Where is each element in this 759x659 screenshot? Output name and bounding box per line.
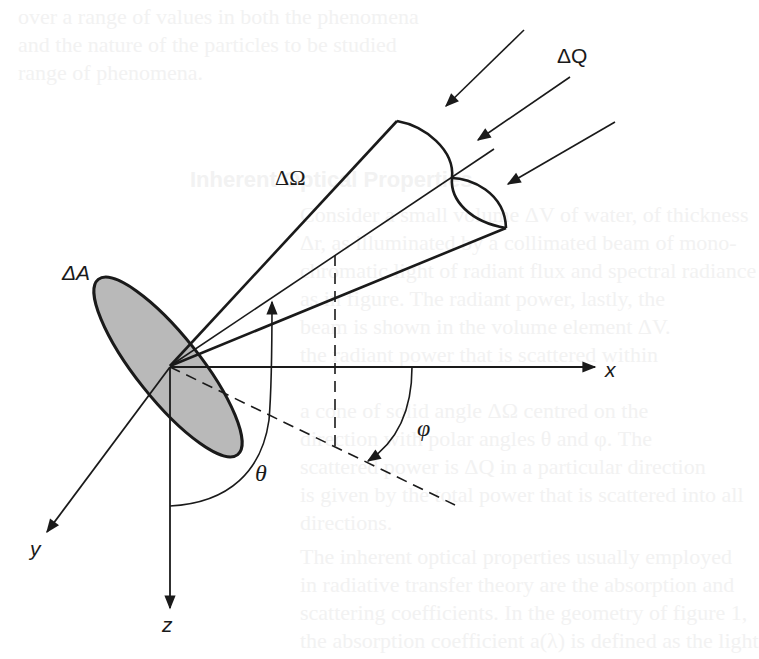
label-phi: φ [417, 416, 430, 440]
incident-arrows [446, 30, 615, 184]
label-delta-q: ΔQ [557, 45, 587, 66]
incident-arrow-1 [446, 30, 524, 106]
incident-arrow-3 [508, 122, 615, 184]
label-axis-y: y [30, 538, 41, 559]
coordinate-axes [47, 367, 595, 608]
y-axis [47, 367, 170, 532]
cone-cap-back [397, 121, 452, 178]
cone-edge-lower [170, 228, 506, 366]
label-delta-a: ΔA [62, 262, 90, 283]
cone-edge-upper [170, 121, 397, 366]
solid-angle-cone [170, 121, 506, 366]
incident-arrow-2 [478, 77, 570, 140]
cone-axis [170, 149, 494, 366]
phi-arc [368, 367, 412, 461]
label-delta-omega: ΔΩ [275, 167, 306, 189]
label-theta: θ [255, 461, 267, 485]
label-axis-z: z [162, 614, 173, 635]
label-axis-x: x [605, 359, 616, 380]
